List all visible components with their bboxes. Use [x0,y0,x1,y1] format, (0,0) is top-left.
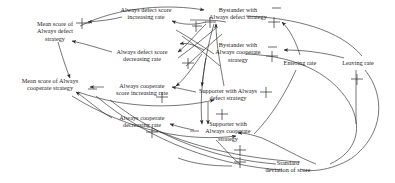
edge-mean-defect-to-mean-cooperate [58,42,70,78]
node-bystander-with-always-cooperate-strategy[interactable]: Bystander with Always cooperate strategy [202,41,274,63]
node-standard-deviation-of-score[interactable]: Standard deviation of score [250,159,326,174]
node-leaving-rate[interactable]: Leaving rate [335,59,381,66]
edge-supporter-coop-to-std [216,140,240,164]
edge-std-tail-left [178,158,232,166]
node-always-cooperate-score-increasing-rate[interactable]: Always cooperate score increasing rate [98,82,186,97]
node-always-cooperate-decreasing-rate[interactable]: Always cooperate decreasing rate [102,114,182,129]
node-supporter-with-always-defect-strategy[interactable]: Supporter with Always defect strategy [185,87,271,102]
node-always-defect-score-decreasing-rate[interactable]: Always defect score decreasing rate [99,48,185,63]
node-mean-score-always-defect-strategy[interactable]: Mean score of Always defect strategy [19,20,91,42]
node-supporter-with-always-cooperate-strategy[interactable]: Supporter with Always cooperate strategy [192,120,264,142]
node-always-defect-score-increasing-rate[interactable]: Always defect score increasing rate [103,6,189,21]
node-entering-rate[interactable]: Entering rate [276,59,324,66]
node-mean-score-always-cooperate-strategy[interactable]: Mean score of Always cooperate strategy [2,77,98,92]
edge-long-sweep-right-lower [246,54,357,164]
node-bystander-with-always-defect-strategy[interactable]: Bystander with Always defect strategy [196,6,280,21]
edge-bystander-defect-to-defect-inc [172,21,206,24]
causal-loop-diagram: Mean score of Always defect strategy Alw… [0,0,395,183]
edge-leaving-rate-to-bystander-coop [284,50,344,58]
edge-leaving-rate-loop-outer [300,70,379,171]
